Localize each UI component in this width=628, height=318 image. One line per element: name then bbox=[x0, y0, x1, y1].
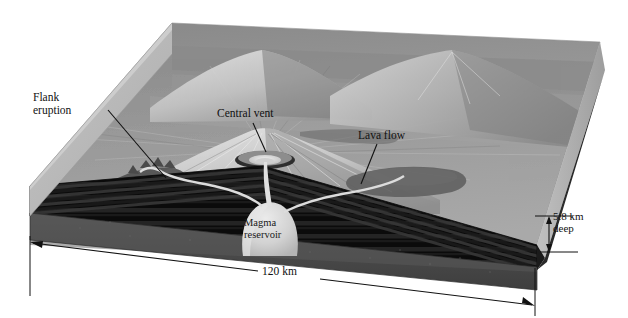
label-depth-line1: 5.8 km bbox=[553, 210, 584, 222]
label-magma-reservoir: Magma reservoir bbox=[244, 217, 281, 240]
figure-canvas: Flank eruption Central vent Lava flow Ma… bbox=[0, 0, 628, 318]
label-flank-eruption: Flank eruption bbox=[33, 91, 71, 116]
label-central-vent: Central vent bbox=[217, 107, 274, 120]
label-lava-flow: Lava flow bbox=[358, 129, 405, 142]
label-depth-line2: deep bbox=[553, 222, 584, 234]
label-scale-120km: 120 km bbox=[262, 265, 297, 278]
label-magma-reservoir-line2: reservoir bbox=[244, 229, 281, 241]
label-magma-reservoir-line1: Magma bbox=[244, 217, 281, 229]
label-flank-eruption-line1: Flank bbox=[33, 91, 71, 104]
label-flank-eruption-line2: eruption bbox=[33, 104, 71, 117]
label-depth: 5.8 km deep bbox=[553, 210, 584, 234]
volcano-block-diagram bbox=[0, 0, 628, 318]
